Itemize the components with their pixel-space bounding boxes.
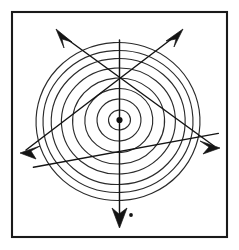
ink-dot <box>129 213 133 217</box>
figure-page: Polar coordinate grid diagram Hand-drawn… <box>0 0 239 250</box>
polar-grid-figure: Polar coordinate grid diagram Hand-drawn… <box>0 0 239 250</box>
origin-point <box>116 117 122 123</box>
polar-grid-canvas: Polar coordinate grid diagram Hand-drawn… <box>0 0 239 250</box>
